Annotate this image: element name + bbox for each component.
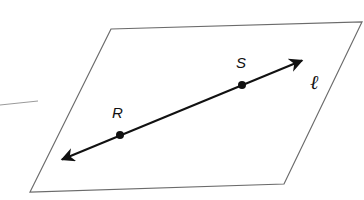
- point-s: [238, 81, 246, 89]
- plane-line-diagram: R S ℓ: [0, 0, 364, 200]
- label-s: S: [236, 54, 246, 71]
- label-line: ℓ: [310, 70, 319, 94]
- label-r: R: [112, 104, 123, 121]
- stray-mark: [0, 101, 38, 105]
- plane-parallelogram: [30, 22, 362, 192]
- point-r: [116, 131, 124, 139]
- line-l: [62, 61, 302, 160]
